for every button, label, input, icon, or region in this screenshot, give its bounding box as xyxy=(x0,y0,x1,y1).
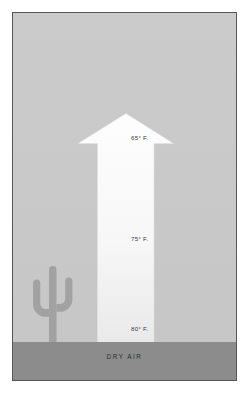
ground-band xyxy=(13,342,236,380)
cactus-trunk xyxy=(49,266,57,346)
temperature-label-bottom: 80° F. xyxy=(131,325,148,332)
figure-root: 65° F. 75° F. 80° F. DRY AIR xyxy=(0,0,249,393)
temperature-label-top: 65° F. xyxy=(131,134,148,141)
scene-svg: 65° F. 75° F. 80° F. DRY AIR xyxy=(13,13,236,380)
ground-label: DRY AIR xyxy=(107,353,143,360)
temperature-label-middle: 75° F. xyxy=(131,235,148,242)
illustration-frame: 65° F. 75° F. 80° F. DRY AIR xyxy=(12,12,237,381)
